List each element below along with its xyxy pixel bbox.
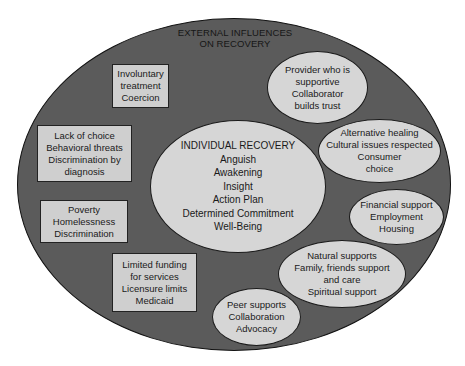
- title-line: ON RECOVERY: [160, 38, 310, 49]
- title-line: EXTERNAL INFLUENCES: [160, 27, 310, 38]
- center-heading: INDIVIDUAL RECOVERY: [181, 139, 295, 153]
- ellipse-line: Provider who is: [285, 64, 350, 76]
- external-influences-title: EXTERNAL INFLUENCES ON RECOVERY: [160, 27, 310, 49]
- ellipse-line: Financial support: [360, 199, 432, 211]
- ellipse-line: Advocacy: [236, 323, 277, 335]
- box-line: treatment: [120, 80, 160, 92]
- ellipse-line: supportive: [296, 76, 340, 88]
- ellipse-line: Spiritual support: [308, 286, 377, 298]
- ellipse-line: choice: [366, 163, 393, 175]
- box-involuntary-treatment: Involuntary treatment Coercion: [112, 64, 169, 108]
- box-line: Involuntary: [117, 68, 163, 80]
- box-line: Coercion: [121, 92, 159, 104]
- box-line: Licensure limits: [122, 283, 187, 295]
- box-line: Homelessness: [53, 216, 115, 228]
- recovery-diagram: EXTERNAL INFLUENCES ON RECOVERY Involunt…: [0, 0, 465, 366]
- center-line: Awakening: [214, 166, 263, 180]
- box-line: Discrimination by: [48, 154, 120, 166]
- box-line: for services: [130, 271, 179, 283]
- ellipse-supportive-provider: Provider who is supportive Collaborator …: [267, 51, 368, 124]
- center-line: Determined Commitment: [182, 207, 293, 221]
- ellipse-alternative-healing: Alternative healing Cultural issues resp…: [318, 119, 441, 183]
- ellipse-line: Housing: [379, 223, 414, 235]
- box-lack-of-choice: Lack of choice Behavioral threats Discri…: [37, 125, 132, 182]
- ellipse-peer-supports: Peer supports Collaboration Advocacy: [212, 288, 301, 346]
- ellipse-line: Employment: [370, 211, 423, 223]
- individual-recovery-ellipse: INDIVIDUAL RECOVERY Anguish Awakening In…: [150, 120, 326, 253]
- ellipse-line: and care: [324, 274, 361, 286]
- ellipse-line: Natural supports: [307, 250, 377, 262]
- center-line: Well-Being: [214, 220, 262, 234]
- box-line: Lack of choice: [54, 130, 115, 142]
- ellipse-line: Peer supports: [227, 299, 286, 311]
- center-line: Action Plan: [213, 193, 264, 207]
- box-line: Medicaid: [135, 295, 173, 307]
- ellipse-line: Alternative healing: [340, 127, 418, 139]
- ellipse-natural-supports: Natural supports Family, friends support…: [278, 240, 406, 308]
- box-line: Behavioral threats: [46, 142, 123, 154]
- ellipse-line: Cultural issues respected: [326, 139, 433, 151]
- box-line: Poverty: [68, 204, 100, 216]
- box-limited-funding: Limited funding for services Licensure l…: [112, 253, 197, 312]
- ellipse-line: builds trust: [295, 100, 341, 112]
- center-line: Insight: [223, 180, 252, 194]
- ellipse-line: Consumer: [358, 151, 402, 163]
- box-line: diagnosis: [64, 166, 104, 178]
- box-line: Limited funding: [122, 259, 186, 271]
- ellipse-line: Collaborator: [292, 88, 344, 100]
- ellipse-line: Family, friends support: [294, 262, 389, 274]
- ellipse-financial-support: Financial support Employment Housing: [349, 189, 444, 245]
- box-line: Discrimination: [54, 228, 114, 240]
- center-line: Anguish: [220, 153, 256, 167]
- box-poverty: Poverty Homelessness Discrimination: [40, 200, 128, 243]
- ellipse-line: Collaboration: [229, 311, 285, 323]
